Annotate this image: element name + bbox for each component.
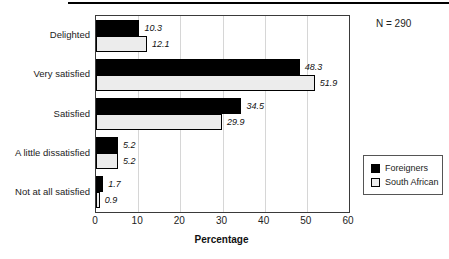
- bar-foreigners-2: [96, 98, 241, 114]
- bar-south-african-1: [96, 75, 315, 91]
- bar-south-african-3: [96, 153, 118, 169]
- legend-item-foreigners: Foreigners: [371, 163, 442, 173]
- bar-south-african-2: [96, 114, 222, 130]
- x-tick-label-40: 40: [258, 215, 269, 227]
- gridline-30: [223, 16, 224, 212]
- bar-foreigners-4: [96, 176, 103, 192]
- sample-size-annotation: N = 290: [376, 18, 411, 29]
- gridline-40: [265, 16, 266, 212]
- value-label-south-african-3: 5.2: [123, 153, 136, 169]
- value-label-south-african-0: 12.1: [152, 36, 170, 52]
- category-label-0: Delighted: [0, 19, 90, 51]
- x-tick-label-30: 30: [216, 215, 227, 227]
- y-axis-category-labels: DelightedVery satisfiedSatisfiedA little…: [0, 15, 90, 211]
- x-axis-ticks: 0102030405060: [95, 215, 348, 227]
- bar-south-african-0: [96, 36, 147, 52]
- legend-label-foreigners: Foreigners: [385, 163, 428, 173]
- x-tick-label-0: 0: [92, 215, 98, 227]
- bar-south-african-4: [96, 192, 100, 208]
- value-label-foreigners-1: 48.3: [305, 59, 323, 75]
- value-label-south-african-4: 0.9: [105, 192, 118, 208]
- value-label-foreigners-2: 34.5: [246, 98, 264, 114]
- gridline-50: [307, 16, 308, 212]
- category-label-2: Satisfied: [0, 97, 90, 129]
- legend-swatch-foreigners: [371, 164, 380, 173]
- x-tick-label-50: 50: [300, 215, 311, 227]
- legend-swatch-south-african: [371, 178, 380, 187]
- x-axis-title: Percentage: [95, 234, 348, 245]
- category-label-3: A little dissatisfied: [0, 136, 90, 168]
- legend-item-south-african: South African: [371, 177, 442, 187]
- value-label-foreigners-4: 1.7: [108, 176, 121, 192]
- legend: Foreigners South African: [363, 155, 443, 195]
- x-tick-label-60: 60: [342, 215, 353, 227]
- top-rule: [68, 2, 449, 4]
- category-label-1: Very satisfied: [0, 58, 90, 90]
- figure: N = 290 DelightedVery satisfiedSatisfied…: [0, 0, 449, 259]
- category-label-4: Not at all satisfied: [0, 175, 90, 207]
- bar-foreigners-3: [96, 137, 118, 153]
- value-label-foreigners-0: 10.3: [144, 20, 162, 36]
- bar-foreigners-1: [96, 59, 300, 75]
- x-tick-label-10: 10: [132, 215, 143, 227]
- value-label-south-african-1: 51.9: [320, 75, 338, 91]
- value-label-south-african-2: 29.9: [227, 114, 245, 130]
- bar-foreigners-0: [96, 20, 139, 36]
- legend-label-south-african: South African: [385, 177, 439, 187]
- plot-area: 10.312.148.351.934.529.95.25.21.70.9: [95, 15, 350, 213]
- x-tick-label-20: 20: [174, 215, 185, 227]
- value-label-foreigners-3: 5.2: [123, 137, 136, 153]
